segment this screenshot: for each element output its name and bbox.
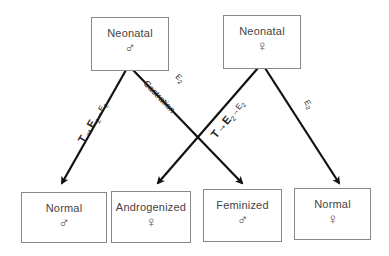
box-label: Androgenized (112, 201, 190, 213)
label-e2-castration: E2 (173, 72, 187, 86)
male-symbol-icon: ♂ (92, 40, 168, 56)
androgenized-female-box: Androgenized ♀ (111, 191, 191, 243)
male-symbol-icon: ♂ (22, 215, 106, 231)
box-label: Feminized (204, 199, 281, 211)
arrow-female-to-normal-female (265, 68, 339, 183)
female-symbol-icon: ♀ (112, 214, 190, 230)
normal-male-box: Normal ♂ (21, 192, 107, 243)
male-symbol-icon: ♂ (204, 212, 281, 228)
female-symbol-icon: ♀ (224, 38, 300, 54)
arrow-female-to-androgenized (158, 68, 258, 183)
label-e2-female: E2 (301, 98, 314, 111)
svg-text:Castration: Castration (142, 78, 178, 114)
feminized-male-box: Feminized ♂ (203, 189, 282, 242)
box-label: Normal (22, 202, 106, 214)
label-castration: Castration (142, 78, 178, 114)
label-t-e2-e2-left: T→E2→E2 (75, 99, 110, 146)
box-label: Normal (295, 198, 370, 210)
female-symbol-icon: ♀ (295, 211, 370, 227)
box-label: Neonatal (224, 25, 300, 37)
svg-text:T→E2→E2: T→E2→E2 (75, 99, 110, 146)
normal-female-box: Normal ♀ (294, 188, 371, 240)
svg-text:E2: E2 (301, 98, 314, 111)
neonatal-male-box: Neonatal ♂ (91, 17, 169, 71)
box-label: Neonatal (92, 27, 168, 39)
svg-text:E2: E2 (173, 72, 187, 86)
neonatal-female-box: Neonatal ♀ (223, 15, 301, 69)
